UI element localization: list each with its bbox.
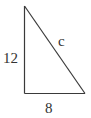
hypotenuse [25, 6, 86, 94]
triangle [25, 6, 86, 94]
hypotenuse-label: c [58, 33, 65, 49]
vertical-leg-label: 12 [3, 50, 18, 66]
right-triangle-diagram: 12 c 8 [0, 0, 91, 118]
horizontal-leg-label: 8 [45, 100, 53, 116]
